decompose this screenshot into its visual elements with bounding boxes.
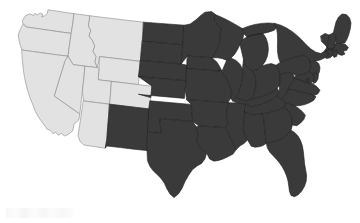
state-sd: South Dakota (140, 41, 182, 64)
us-map-figure: Map of the contiguous United States Wash… (0, 0, 360, 223)
state-az: Arizona (78, 101, 110, 148)
us-map-svg: Map of the contiguous United States Wash… (0, 0, 360, 223)
state-nd: North Dakota (142, 22, 184, 45)
state-nm: New Mexico (105, 104, 150, 150)
